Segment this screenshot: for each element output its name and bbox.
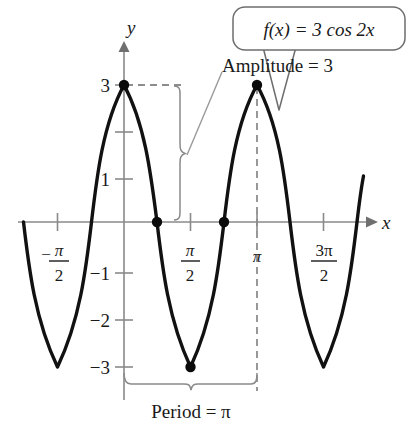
period-brace [124, 373, 257, 390]
function-callout-label: f(x) = 3 cos 2x [264, 19, 376, 41]
y-tick-label-neg-2: −2 [90, 310, 110, 331]
neg-half-pi-numerator: π [55, 241, 64, 260]
y-axis-label: y [125, 17, 136, 38]
y-tick-label-neg-3: −3 [90, 357, 110, 378]
y-tick-label-3: 3 [101, 75, 111, 96]
y-tick-label-1: 1 [101, 169, 111, 190]
x-tick-label-half-pi: π 2 [181, 241, 200, 285]
x-axis-label: x [381, 212, 391, 233]
x-tick-label-pi: π [253, 247, 262, 266]
amplitude-brace [174, 86, 185, 220]
period-annotation-label: Period = π [151, 401, 231, 422]
half-pi-numerator: π [186, 241, 195, 260]
point-max-pi [252, 80, 262, 90]
half-pi-denominator: 2 [186, 266, 195, 285]
cosine-curve [24, 85, 364, 367]
y-tick-label-neg-1: −1 [90, 263, 110, 284]
trig-graph-figure: y x 3 1 −1 −2 −3 − π 2 π 2 π 3π 2 Amplit… [0, 0, 411, 438]
point-max-origin [119, 80, 129, 90]
point-zero-three-quarter-pi [219, 217, 229, 227]
three-half-pi-denominator: 2 [320, 266, 329, 285]
x-tick-label-neg-half-pi: − π 2 [41, 241, 69, 285]
point-zero-quarter-pi [152, 217, 162, 227]
amplitude-leader-line [187, 72, 222, 155]
point-min-half-pi [185, 362, 195, 372]
x-tick-label-three-half-pi: 3π 2 [311, 241, 337, 285]
neg-half-pi-denominator: 2 [55, 266, 64, 285]
amplitude-annotation-label: Amplitude = 3 [222, 55, 333, 76]
y-axis-arrow [119, 41, 130, 52]
x-axis-arrow [366, 217, 378, 228]
three-half-pi-numerator: 3π [315, 241, 333, 260]
